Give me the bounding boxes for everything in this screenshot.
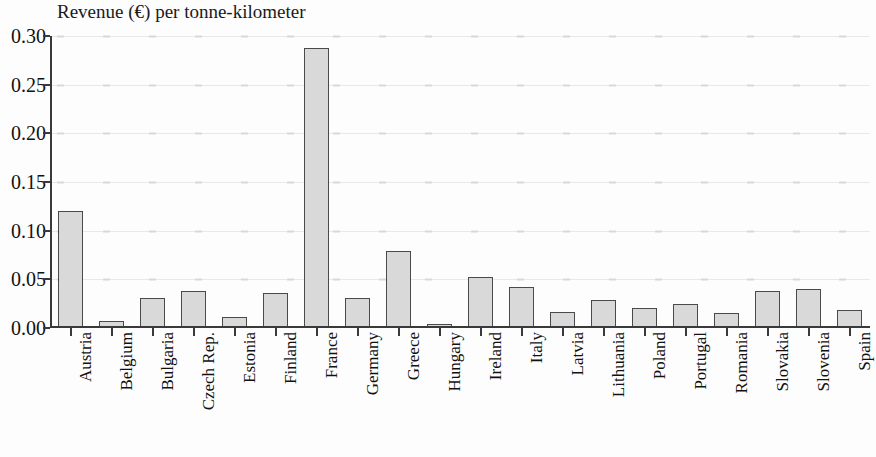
- x-axis-label: Spain: [856, 332, 873, 371]
- y-axis-tick-label: 0.00: [11, 318, 46, 338]
- x-axis-label: Ireland: [487, 332, 504, 380]
- gridline-texture: [50, 132, 870, 135]
- y-axis-tick-label: 0.15: [11, 172, 46, 192]
- bar-portugal: [673, 304, 698, 328]
- x-axis-label: Greece: [405, 332, 422, 380]
- y-axis-tick-label: 0.20: [11, 123, 46, 143]
- y-axis-tick: [43, 327, 50, 329]
- y-axis-tick: [43, 132, 50, 134]
- bar-chart: Revenue (€) per tonne-kilometer 0.300.25…: [0, 0, 876, 457]
- x-axis-label: Slovakia: [774, 332, 791, 392]
- x-axis-label: Slovenia: [815, 332, 832, 392]
- x-axis-label: France: [323, 332, 340, 378]
- bar-ireland: [468, 277, 493, 328]
- bar-bulgaria: [140, 298, 165, 328]
- y-axis-tick: [43, 230, 50, 232]
- x-axis-label: Portugal: [692, 332, 709, 390]
- y-axis-tick: [43, 84, 50, 86]
- y-axis-tick-label: 0.25: [11, 75, 46, 95]
- x-axis-label: Romania: [733, 332, 750, 393]
- bar-poland: [632, 308, 657, 328]
- x-axis-label: Lithuania: [610, 332, 627, 397]
- bar-finland: [263, 293, 288, 328]
- x-axis-category-labels: AustriaBelgiumBulgariaCzech Rep.EstoniaF…: [50, 332, 870, 457]
- x-axis-label: Austria: [77, 332, 94, 382]
- bar-greece: [386, 251, 411, 328]
- x-axis-label: Czech Rep.: [200, 332, 217, 410]
- y-axis-tick: [43, 35, 50, 37]
- x-axis-label: Estonia: [241, 332, 258, 383]
- x-axis-label: Finland: [282, 332, 299, 384]
- y-axis-tick: [43, 278, 50, 280]
- x-axis-line: [50, 326, 870, 328]
- y-axis-tick-label: 0.05: [11, 269, 46, 289]
- plot-area: [50, 36, 870, 328]
- bar-lithuania: [591, 300, 616, 328]
- bar-france: [304, 48, 329, 328]
- gridline-texture: [50, 181, 870, 184]
- y-axis-line: [50, 36, 52, 328]
- x-axis-label: Bulgaria: [159, 332, 176, 391]
- bar-germany: [345, 298, 370, 328]
- x-axis-label: Belgium: [118, 332, 135, 391]
- bar-italy: [509, 287, 534, 328]
- x-axis-label: Latvia: [569, 332, 586, 375]
- bar-slovenia: [796, 289, 821, 328]
- y-axis-tick-labels: 0.300.250.200.150.100.050.00: [0, 36, 46, 328]
- gridline-texture: [50, 84, 870, 87]
- bar-czech-rep: [181, 291, 206, 328]
- x-axis-label: Italy: [528, 332, 545, 363]
- gridline-texture: [50, 35, 870, 38]
- bar-austria: [58, 211, 83, 328]
- x-axis-label: Hungary: [446, 332, 463, 391]
- y-axis-tick: [43, 181, 50, 183]
- y-axis-tick-label: 0.10: [11, 221, 46, 241]
- bar-slovakia: [755, 291, 780, 328]
- gridline-texture: [50, 278, 870, 281]
- x-axis-label: Poland: [651, 332, 668, 379]
- gridline-texture: [50, 230, 870, 233]
- y-axis-tick-label: 0.30: [11, 26, 46, 46]
- x-axis-label: Germany: [364, 332, 381, 395]
- chart-title: Revenue (€) per tonne-kilometer: [57, 1, 305, 23]
